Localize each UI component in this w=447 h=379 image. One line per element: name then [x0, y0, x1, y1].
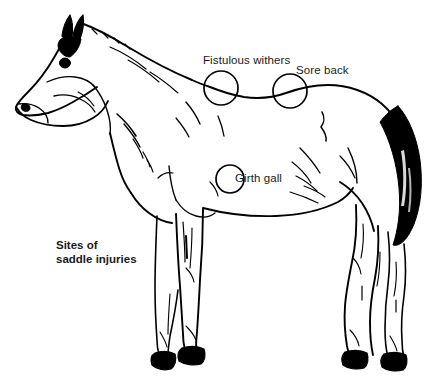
saddle-injury-diagram: Fistulous withers Sore back Girth gall S… [0, 0, 447, 379]
eye [60, 58, 71, 68]
hind-hoof-far [381, 353, 407, 371]
caption-line-2: saddle injuries [56, 252, 137, 266]
label-fistulous-withers: Fistulous withers [203, 54, 290, 68]
caption-line-1: Sites of [56, 238, 137, 252]
label-girth-gall: Girth gall [235, 172, 282, 186]
figure-caption: Sites of saddle injuries [56, 238, 137, 266]
front-hoof-near [178, 347, 205, 365]
label-sore-back: Sore back [296, 64, 349, 78]
nostril [21, 104, 30, 112]
front-hoof-far [151, 352, 176, 370]
hind-hoof-near [342, 351, 368, 369]
